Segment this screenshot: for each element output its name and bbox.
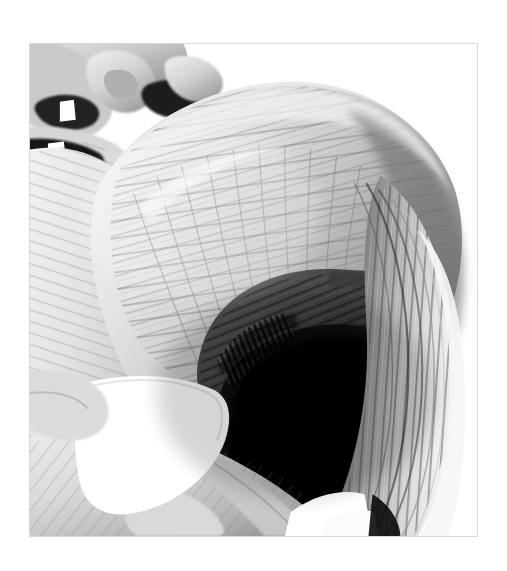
anatomy-canvas [30,44,477,536]
bone-highlight-upper [60,100,76,122]
page-root: Gluteal region deep dissection [0,0,507,571]
anatomical-illustration: Gluteal region deep dissection [30,44,477,536]
illustration-frame: Gluteal region deep dissection [29,43,478,537]
global-highlight-pass [80,128,319,299]
global-shadow-pass [157,291,436,498]
